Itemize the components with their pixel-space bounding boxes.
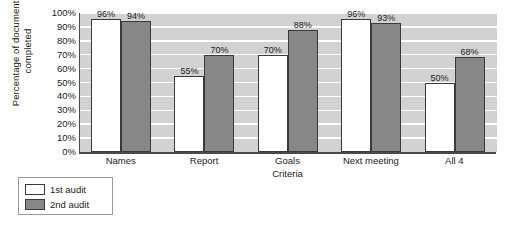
y-axis-tick-label: 0% [36,147,76,157]
bar[interactable]: 94% [121,21,151,152]
bar[interactable]: 50% [425,83,455,153]
bar-value-label: 96% [347,9,365,19]
bar-value-label: 55% [180,66,198,76]
x-axis-title: Criteria [79,168,496,180]
legend-item[interactable]: 2nd audit [25,197,112,212]
bar[interactable]: 70% [258,55,288,152]
x-axis-line [79,152,496,154]
bar-group: 70%88% [247,13,330,152]
bar-value-label: 93% [377,13,395,23]
bar[interactable]: 96% [91,19,121,152]
legend-label: 2nd audit [50,199,89,210]
y-axis-tick-labels: 100%90%80%70%60%50%40%30%20%10%0% [36,8,76,156]
y-axis-tick-label: 60% [36,64,76,74]
y-axis-tick-label: 10% [36,133,76,143]
bars-layer: 96%94%55%70%70%88%96%93%50%68% [80,13,497,152]
legend-label: 1st audit [50,184,86,195]
y-axis-tick-label: 30% [36,105,76,115]
bar-value-label: 68% [461,47,479,57]
bar[interactable]: 88% [288,30,318,152]
bar-value-label: 94% [127,11,145,21]
bar-chart-figure: Percentage of documents completed 100%90… [0,0,507,227]
y-axis-tick-label: 20% [36,119,76,129]
x-axis-tick-label: Report [190,155,219,167]
bar-group: 50%68% [414,13,497,152]
y-axis-tick-label: 70% [36,50,76,60]
bar-value-label: 70% [264,45,282,55]
x-axis-tick-label: Names [106,155,136,167]
bar-group: 55%70% [163,13,246,152]
bar[interactable]: 70% [204,55,234,152]
bar[interactable]: 68% [455,57,485,152]
bar[interactable]: 93% [371,23,401,152]
legend-item[interactable]: 1st audit [25,182,112,197]
legend-swatch [25,184,45,195]
y-axis-tick-label: 90% [36,22,76,32]
x-axis-tick-label: Next meeting [343,155,399,167]
bar-group: 96%94% [80,13,163,152]
y-axis-tick-label: 100% [36,8,76,18]
bar-value-label: 88% [294,20,312,30]
y-axis-tick-label: 50% [36,78,76,88]
bar[interactable]: 96% [341,19,371,152]
x-axis-tick-labels: NamesReportGoalsNext meetingAll 4 [79,155,496,169]
bar-group: 96%93% [330,13,413,152]
y-axis-tick-label: 80% [36,36,76,46]
bar-value-label: 70% [210,45,228,55]
plot-area: 96%94%55%70%70%88%96%93%50%68% [79,13,497,152]
bar-value-label: 50% [431,73,449,83]
bar[interactable]: 55% [174,76,204,152]
x-axis-tick-label: All 4 [445,155,463,167]
legend-swatch [25,199,45,210]
chart-legend: 1st audit2nd audit [18,177,113,215]
bar-value-label: 96% [97,9,115,19]
x-axis-tick-label: Goals [275,155,300,167]
y-axis-tick-label: 40% [36,91,76,101]
